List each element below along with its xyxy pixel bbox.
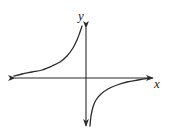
y-axis-label: y [76,8,84,23]
graph-canvas: y x [0,0,169,137]
hyperbola-branch-upper-left [14,26,82,76]
hyperbola-branch-lower-right [90,78,150,126]
hyperbola-graph-figure: y x [0,0,169,137]
x-axis-label: x [153,76,160,91]
